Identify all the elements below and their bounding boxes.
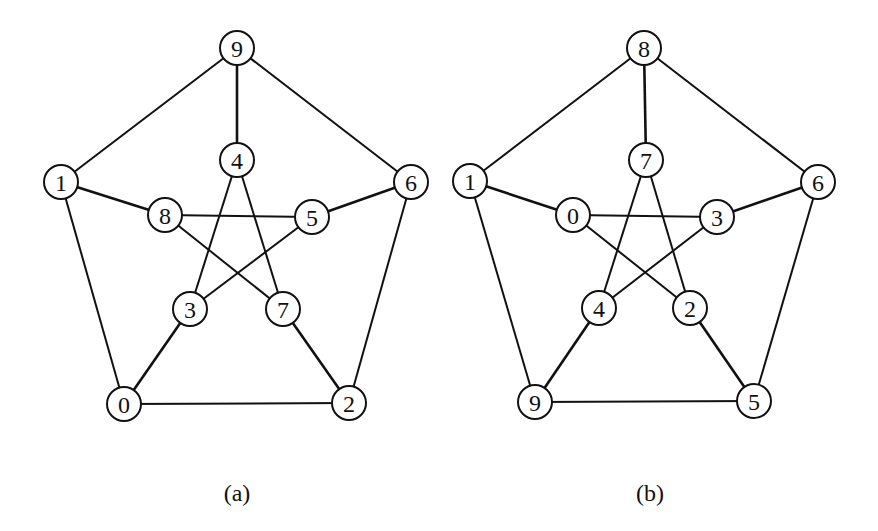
node-6: 6 [394,165,428,199]
caption-a: (a) [224,480,251,506]
node-7: 7 [266,292,300,326]
node-3: 3 [700,200,734,234]
edge-4-7 [237,160,283,309]
caption-b: (b) [636,480,664,506]
edges [470,48,818,402]
node-6: 6 [801,165,835,199]
node-label: 9 [231,36,243,62]
node-label: 2 [684,296,696,322]
edges [61,48,411,404]
edge-7-4 [599,160,646,308]
edge-0-2 [124,403,349,404]
node-label: 3 [184,297,196,323]
node-label: 0 [118,392,130,418]
edge-8-5 [165,215,312,217]
node-4: 4 [220,143,254,177]
node-label: 0 [567,203,579,229]
edge-7-2 [646,160,690,308]
node-label: 1 [464,169,476,195]
node-label: 7 [640,148,652,174]
node-8: 8 [148,198,182,232]
petersen-graph-diagram: 0123456789 (a) 0123456789 (b) [0,0,878,531]
edge-6-5 [754,182,818,401]
node-label: 4 [231,148,243,174]
edge-9-5 [535,401,754,402]
node-label: 5 [306,205,318,231]
edge-9-6 [237,48,411,182]
graph-b: 0123456789 (b) [453,31,835,506]
node-label: 6 [405,170,417,196]
node-label: 5 [748,389,760,415]
node-0: 0 [107,387,141,421]
node-label: 4 [593,296,605,322]
graph-a: 0123456789 (a) [44,31,428,506]
node-3: 3 [173,292,207,326]
node-label: 1 [55,170,67,196]
node-1: 1 [453,164,487,198]
node-2: 2 [673,291,707,325]
node-5: 5 [295,200,329,234]
edge-0-3 [573,215,717,217]
edge-9-1 [61,48,237,182]
node-label: 3 [711,205,723,231]
node-0: 0 [556,198,590,232]
edge-8-6 [644,48,818,182]
node-label: 7 [277,297,289,323]
node-label: 9 [529,390,541,416]
edge-4-3 [190,160,237,309]
node-label: 6 [812,170,824,196]
edge-1-0 [61,182,124,404]
node-label: 8 [159,203,171,229]
node-4: 4 [582,291,616,325]
node-5: 5 [737,384,771,418]
edge-1-9 [470,181,535,402]
node-9: 9 [518,385,552,419]
node-1: 1 [44,165,78,199]
node-8: 8 [627,31,661,65]
node-label: 8 [638,36,650,62]
edge-6-2 [349,182,411,403]
node-7: 7 [629,143,663,177]
node-label: 2 [343,391,355,417]
node-2: 2 [332,386,366,420]
node-9: 9 [220,31,254,65]
edge-8-1 [470,48,644,181]
